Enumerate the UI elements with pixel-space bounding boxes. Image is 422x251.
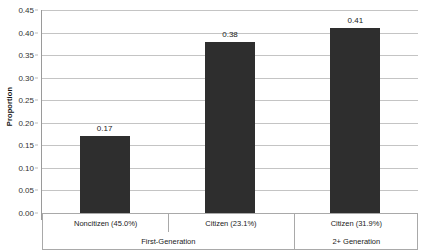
bar bbox=[80, 136, 130, 213]
y-tick-label: 0.20 bbox=[0, 118, 34, 127]
y-tick-mark bbox=[35, 32, 38, 33]
y-tick-mark bbox=[35, 122, 38, 123]
gridline bbox=[42, 10, 418, 11]
y-tick-label: 0.00 bbox=[0, 209, 34, 218]
category-label-table: Noncitizen (45.0%)Citizen (23.1%)Citizen… bbox=[42, 213, 418, 250]
plot-area: 0.170.380.41 bbox=[42, 10, 418, 213]
y-tick-mark bbox=[35, 10, 38, 11]
category-row-detail: Noncitizen (45.0%)Citizen (23.1%)Citizen… bbox=[43, 214, 417, 232]
y-tick-mark bbox=[35, 145, 38, 146]
y-tick-mark bbox=[35, 213, 38, 214]
group-label: First-Generation bbox=[43, 232, 294, 250]
y-tick-label: 0.25 bbox=[0, 96, 34, 105]
y-tick-label: 0.30 bbox=[0, 73, 34, 82]
y-tick-mark bbox=[35, 55, 38, 56]
bar bbox=[205, 42, 255, 213]
y-tick-label: 0.40 bbox=[0, 28, 34, 37]
y-tick-mark bbox=[35, 77, 38, 78]
y-tick-label: 0.15 bbox=[0, 141, 34, 150]
category-label: Citizen (23.1%) bbox=[168, 214, 293, 232]
y-tick-mark bbox=[35, 167, 38, 168]
category-separator bbox=[168, 214, 169, 232]
bar-chart: Proportion 0.000.050.100.150.200.250.300… bbox=[0, 0, 422, 251]
y-tick-label: 0.35 bbox=[0, 51, 34, 60]
y-tick-label: 0.45 bbox=[0, 6, 34, 15]
category-label: Noncitizen (45.0%) bbox=[43, 214, 168, 232]
y-tick-mark bbox=[35, 100, 38, 101]
y-tick-mark bbox=[35, 190, 38, 191]
bar-value-label: 0.41 bbox=[348, 16, 364, 25]
bar-value-label: 0.17 bbox=[97, 124, 113, 133]
bar-value-label: 0.38 bbox=[222, 30, 238, 39]
category-separator bbox=[294, 214, 295, 250]
y-tick-label: 0.05 bbox=[0, 186, 34, 195]
category-row-group: First-Generation2+ Generation bbox=[43, 232, 417, 250]
bar bbox=[330, 28, 380, 213]
y-axis-tick-labels: 0.000.050.100.150.200.250.300.350.400.45 bbox=[0, 0, 40, 251]
group-label: 2+ Generation bbox=[294, 232, 419, 250]
category-label: Citizen (31.9%) bbox=[294, 214, 419, 232]
y-tick-label: 0.10 bbox=[0, 163, 34, 172]
